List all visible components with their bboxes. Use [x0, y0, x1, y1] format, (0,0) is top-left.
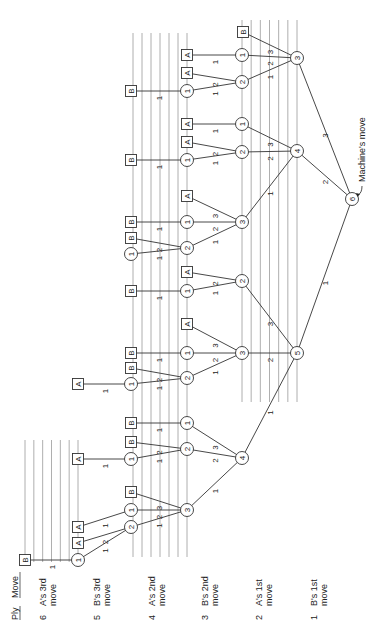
score-node: 1 — [125, 378, 138, 391]
ply-move-line2: move — [102, 584, 112, 606]
edge-label: 1 — [211, 290, 220, 295]
edge-label: 2 — [155, 514, 164, 519]
ply-number: 3 — [200, 615, 210, 620]
edge-label: 1 — [266, 74, 275, 79]
node-label: B — [21, 557, 30, 562]
node-label: A — [183, 193, 192, 199]
ply-number: 1 — [309, 615, 319, 620]
node-label: 1 — [183, 219, 192, 224]
edge-label: 2 — [266, 156, 275, 161]
terminal-node-b: B — [126, 487, 137, 498]
terminal-node-a: A — [182, 119, 193, 130]
node-label: B — [239, 29, 248, 34]
score-node: 2 — [236, 275, 249, 288]
terminal-node-b: B — [126, 348, 137, 359]
edge-label: 3 — [266, 142, 275, 147]
score-node: 1 — [72, 554, 85, 567]
edge-label: 1 — [155, 427, 164, 432]
edge-label: 1 — [266, 410, 275, 415]
ply-move-line1: B's 3rd — [92, 578, 102, 606]
score-node: 2 — [236, 76, 249, 89]
terminal-node-a: A — [73, 379, 84, 390]
terminal-node-a: A — [182, 50, 193, 61]
node-label: A — [183, 70, 192, 76]
edge-label: 1 — [155, 226, 164, 231]
edge-label: 1 — [155, 357, 164, 362]
terminal-node-a: A — [182, 68, 193, 79]
terminal-node-b: B — [126, 437, 137, 448]
edge-label: 1 — [48, 564, 57, 569]
edge-label: 1 — [211, 370, 220, 375]
node-label: 1 — [238, 121, 247, 126]
edge-label: 3 — [155, 505, 164, 510]
node-label: B — [127, 350, 136, 355]
score-node: 2 — [181, 443, 194, 456]
node-label: B — [127, 235, 136, 240]
ply-move-line2: move — [319, 584, 329, 606]
edge-label: 2 — [211, 226, 220, 231]
edge-label: 2 — [211, 151, 220, 156]
edge-label: 1 — [155, 458, 164, 463]
node-label: 1 — [183, 288, 192, 293]
node-label: 1 — [238, 52, 247, 57]
score-node: 2 — [125, 521, 138, 534]
game-tree-diagram: 1231231231231231231212312112112312112111… — [0, 0, 375, 632]
terminal-node-a: A — [182, 191, 193, 202]
tree-edge — [187, 423, 242, 458]
node-label: B — [127, 365, 136, 370]
node-label: A — [74, 540, 83, 546]
node-label: 4 — [238, 455, 247, 460]
score-node: 1 — [125, 248, 138, 261]
tree-edge — [131, 368, 187, 378]
machine-move-label: Machine's move — [357, 117, 367, 182]
edge-label: 1 — [155, 385, 164, 390]
ply-move-line2: move — [210, 584, 220, 606]
edge-label: 1 — [211, 91, 220, 96]
tree-edge — [297, 199, 352, 353]
tree-edge — [187, 458, 242, 510]
score-node: 1 — [236, 49, 249, 62]
terminal-node-b: B — [238, 27, 249, 38]
ply-row-5: 5B's 3rdmove — [92, 578, 112, 620]
edge-label: 1 — [321, 280, 330, 285]
tree-edge — [297, 151, 352, 199]
node-label: B — [127, 489, 136, 494]
terminal-node-a: A — [182, 267, 193, 278]
ply-move-line1: A's 1st — [254, 579, 264, 606]
score-node: 3 — [291, 52, 304, 65]
terminal-node-b: B — [126, 217, 137, 228]
score-node: 3 — [236, 216, 249, 229]
tree-edge — [187, 272, 242, 281]
game-tree-canvas: 1231231231231231231212312112112312112111… — [0, 0, 375, 632]
ply-row-1: 1B's 1stmove — [309, 579, 329, 620]
move-header-label: Move — [10, 576, 20, 598]
node-label: 3 — [238, 219, 247, 224]
edge-label: 1 — [155, 523, 164, 528]
edge-label: 2 — [155, 450, 164, 455]
node-label: A — [74, 381, 83, 387]
node-label: A — [183, 269, 192, 275]
edge-label: 1 — [101, 548, 110, 553]
ply-row-2: 2A's 1stmove — [254, 579, 274, 620]
node-label: 2 — [238, 278, 247, 283]
ply-number: 4 — [147, 615, 157, 620]
score-node: 1 — [181, 85, 194, 98]
node-label: 2 — [183, 245, 192, 250]
tree-edge — [187, 142, 242, 152]
edge-label: 3 — [211, 343, 220, 348]
ply-header-label: Ply — [10, 607, 20, 620]
edge-label: 3 — [266, 321, 275, 326]
score-node: 1 — [181, 285, 194, 298]
annotation-arrow-icon — [358, 186, 362, 195]
score-node: 1 — [236, 118, 249, 131]
node-label: 2 — [238, 79, 247, 84]
node-label: 1 — [127, 507, 136, 512]
score-node: 4 — [291, 145, 304, 158]
ply-move-line2: move — [48, 584, 58, 606]
terminal-node-a: A — [73, 454, 84, 465]
tree-edge — [297, 58, 352, 199]
node-label: 3 — [183, 507, 192, 512]
score-node: 3 — [181, 504, 194, 517]
node-label: B — [127, 420, 136, 425]
ply-legend: Ply Move 6A's 3rdmove5B's 3rdmove4A's 2n… — [10, 572, 329, 620]
